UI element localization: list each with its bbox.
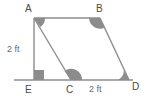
vertex-label-e: E	[25, 85, 32, 95]
vertex-label-d: D	[132, 82, 139, 92]
measure-label-base: 2 ft	[89, 85, 102, 94]
angle-mark-a	[34, 18, 45, 27]
right-angle-square-e	[34, 70, 44, 80]
vertex-label-c: C	[66, 85, 73, 95]
geometry-figure: A B C D E 2 ft 2 ft	[0, 0, 149, 100]
angle-mark-c	[65, 69, 83, 80]
vertex-label-a: A	[25, 4, 32, 14]
vertex-label-b: B	[96, 4, 103, 14]
geometry-canvas	[0, 0, 149, 100]
measure-label-height: 2 ft	[7, 45, 20, 54]
angle-mark-b	[89, 18, 105, 29]
